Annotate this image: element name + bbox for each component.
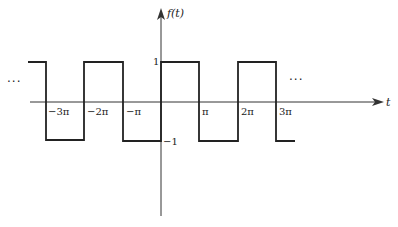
function-label: f(t) bbox=[167, 8, 184, 19]
x-tick-2pi: 2π bbox=[241, 107, 254, 117]
x-tick-neg3pi: −3π bbox=[48, 107, 69, 117]
x-tick-negpi: −π bbox=[126, 107, 141, 117]
y-tick-high: 1 bbox=[153, 57, 159, 67]
x-tick-pi: π bbox=[202, 107, 209, 117]
t-axis-label: t bbox=[386, 97, 390, 108]
ellipsis-right: ··· bbox=[289, 74, 303, 86]
ellipsis-left: ··· bbox=[7, 76, 21, 88]
y-tick-low: −1 bbox=[163, 137, 178, 147]
x-tick-3pi: 3π bbox=[279, 107, 292, 117]
x-tick-neg2pi: −2π bbox=[87, 107, 108, 117]
